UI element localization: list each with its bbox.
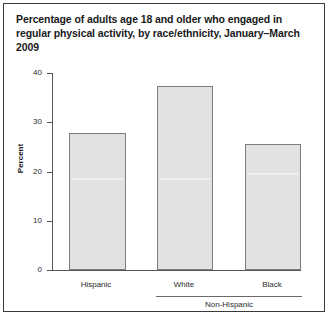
y-tick-mark-0 — [47, 270, 52, 271]
x-category-label-hispanic: Hispanic — [66, 280, 126, 289]
cut-off-caption — [10, 315, 240, 319]
y-tick-label-10: 10 — [22, 217, 42, 225]
y-tick-label-20: 20 — [22, 168, 42, 176]
x-category-label-black: Black — [242, 280, 302, 289]
figure-frame: Percentage of adults age 18 and older wh… — [3, 3, 325, 312]
y-tick-label-0: 0 — [22, 266, 42, 274]
x-axis-line — [52, 270, 301, 271]
group-bracket-label: Non-Hispanic — [156, 300, 302, 309]
y-axis-title: Percent — [16, 134, 25, 184]
plot-area: Percent 40 30 20 10 0 Hispanic Wh — [4, 4, 326, 313]
bar-black[interactable] — [245, 144, 301, 270]
bar-white[interactable] — [157, 86, 213, 270]
y-tick-mark-30 — [47, 122, 52, 123]
bar-hispanic[interactable] — [69, 133, 126, 270]
y-tick-mark-10 — [47, 221, 52, 222]
y-tick-label-30: 30 — [22, 118, 42, 126]
y-tick-label-40: 40 — [22, 69, 42, 77]
x-category-label-white: White — [154, 280, 214, 289]
group-bracket-line — [156, 296, 302, 297]
y-tick-mark-40 — [47, 73, 52, 74]
y-tick-mark-20 — [47, 172, 52, 173]
y-axis-line — [52, 73, 53, 271]
